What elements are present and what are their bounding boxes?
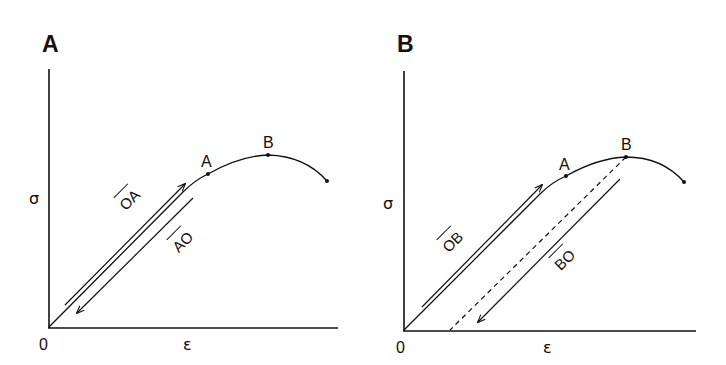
vector-label-oa: OA (113, 183, 143, 213)
panel-b: B σ ε 0 A B OB BO (383, 31, 696, 357)
panel-label: A (42, 31, 59, 57)
origin-label: 0 (396, 339, 405, 356)
point-b-marker (266, 153, 270, 157)
point-a-marker (206, 172, 210, 176)
vector-label-ob: OB (436, 225, 466, 255)
x-axis-label: ε (183, 335, 192, 354)
fracture-point-marker (682, 180, 686, 184)
svg-text:OB: OB (439, 228, 466, 255)
panel-a: A σ ε 0 A B OA AO (29, 31, 338, 354)
origin-label: 0 (39, 336, 48, 353)
figure: A σ ε 0 A B OA AO B σ ε 0 (0, 0, 726, 365)
point-a-label: A (559, 156, 570, 173)
point-b-marker (624, 155, 628, 159)
panel-label: B (397, 31, 414, 57)
svg-text:OA: OA (116, 186, 143, 213)
loading-arrow-ob (422, 185, 542, 307)
x-axis-label: ε (543, 338, 552, 357)
point-b-label: B (621, 136, 632, 153)
fracture-point-marker (325, 179, 329, 183)
svg-text:AO: AO (169, 228, 196, 255)
svg-text:BO: BO (551, 246, 578, 273)
y-axis-label: σ (29, 189, 39, 208)
y-axis-label: σ (383, 194, 393, 213)
point-b-label: B (263, 134, 274, 151)
unloading-arrow-ao (77, 198, 193, 313)
vector-label-ao: AO (166, 225, 196, 255)
vector-label-bo: BO (548, 243, 578, 273)
point-a-marker (564, 174, 568, 178)
unloading-path-dashed (450, 157, 626, 330)
point-a-label: A (201, 153, 212, 170)
unloading-arrow-bo (478, 179, 620, 322)
